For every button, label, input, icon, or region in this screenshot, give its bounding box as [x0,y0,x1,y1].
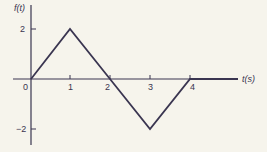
x-tick-label-1: 1 [68,82,73,92]
chart-svg: f(t) t(s) 0 1 2 3 4 2 −2 [0,0,267,152]
x-axis-label: t(s) [242,74,255,84]
y-tick-label-2: 2 [20,24,25,34]
y-axis-label: f(t) [14,3,25,13]
x-tick-label-4: 4 [190,82,195,92]
x-tick-label-0: 0 [23,82,28,92]
signal-chart: f(t) t(s) 0 1 2 3 4 2 −2 [0,0,267,152]
y-tick-label-neg2: −2 [16,124,26,134]
x-tick-label-2: 2 [105,82,110,92]
x-tick-label-3: 3 [148,82,153,92]
